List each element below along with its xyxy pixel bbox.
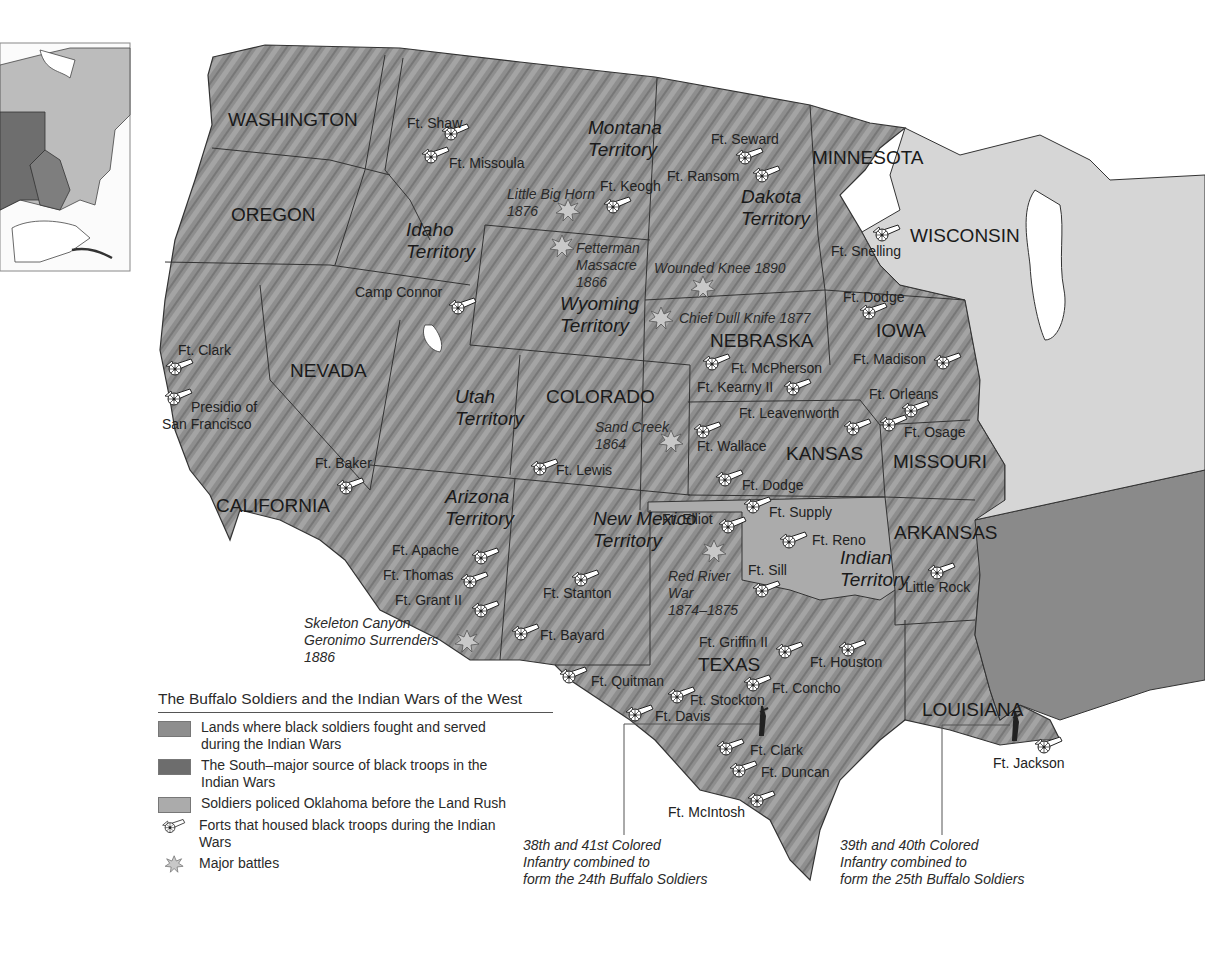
south-swatch [158,759,191,775]
territory-label: MontanaTerritory [588,117,662,160]
legend-label: Soldiers policed Oklahoma before the Lan… [201,795,521,812]
fort-label: Ft. Quitman [591,673,664,689]
state-label: KANSAS [786,443,863,464]
state-label: OREGON [231,204,315,225]
fort-label: Ft. Keogh [600,178,661,194]
fort-label: Ft. Seward [711,131,779,147]
fort-label: Ft. Stanton [543,585,611,601]
fort-label: Ft. Orleans [869,386,938,402]
battle-burst-icon [158,855,191,873]
legend-item-south: The South–major source of black troops i… [158,757,553,791]
fort-label: Ft. Thomas [383,567,454,583]
served-lands-swatch [158,721,191,737]
legend-label: Major battles [199,855,519,872]
fort-label: Ft. Elliot [662,511,713,527]
state-label: NEBRASKA [710,330,814,351]
fort-label: Ft. Bayard [540,627,605,643]
fort-label: Ft. Osage [904,424,966,440]
fort-label: Ft. Shaw [407,115,463,131]
state-label: ARKANSAS [894,522,997,543]
legend-label: The South–major source of black troops i… [201,757,521,791]
fort-label: Ft. Ransom [667,168,739,184]
map-legend: The Buffalo Soldiers and the Indian Wars… [158,690,553,877]
state-label: MINNESOTA [812,147,924,168]
legend-item-battles: Major battles [158,855,553,873]
fort-label: Ft. Lewis [556,462,612,478]
fort-label: Ft. Leavenworth [739,405,839,421]
inset-map [0,43,130,271]
oklahoma-swatch [158,797,191,813]
fort-label: Ft. Clark [178,342,232,358]
fort-label: Ft. McPherson [731,360,822,376]
legend-item-oklahoma: Soldiers policed Oklahoma before the Lan… [158,795,553,813]
state-label: TEXAS [698,654,760,675]
fort-label: Ft. Stockton [690,692,765,708]
fort-label: Ft. Apache [392,542,459,558]
fort-label: Ft. Clark [750,742,804,758]
fort-label: Ft. Wallace [697,438,767,454]
territory-label: ArizonaTerritory [444,486,515,529]
state-label: NEVADA [290,360,367,381]
fort-label: Ft. Dodge [742,477,804,493]
fort-label: Ft. Supply [769,504,832,520]
state-label: MISSOURI [893,451,987,472]
battle-label: Chief Dull Knife 1877 [679,310,812,326]
fort-label: Ft. Duncan [761,764,829,780]
fort-label: Ft. Dodge [843,289,905,305]
territory-label: DakotaTerritory [741,186,811,229]
legend-label: Lands where black soldiers fought and se… [201,719,521,753]
state-label: WISCONSIN [910,225,1020,246]
fort-label: Ft. Reno [812,532,866,548]
legend-title: The Buffalo Soldiers and the Indian Wars… [158,690,553,713]
legend-item-forts: Forts that housed black troops during th… [158,817,553,851]
fort-label: Ft. Missoula [449,155,525,171]
fort-label: Little Rock [905,579,971,595]
note-text: 39th and 40th ColoredInfantry combined t… [840,837,1024,887]
fort-label: Ft. Sill [748,562,787,578]
legend-item-served-lands: Lands where black soldiers fought and se… [158,719,553,753]
territory-label: WyomingTerritory [560,293,640,336]
state-label: LOUISIANA [922,699,1024,720]
battle-label: Wounded Knee 1890 [654,260,786,276]
fort-label: Ft. Grant II [395,592,462,608]
fort-label: Camp Connor [355,284,442,300]
state-label: CALIFORNIA [216,495,330,516]
fort-label: Ft. Davis [655,708,710,724]
fort-label: Ft. Griffin II [699,634,768,650]
fort-label: Ft. Madison [853,351,926,367]
fort-label: Ft. McIntosh [668,804,745,820]
fort-label: Ft. Kearny II [697,379,773,395]
fort-label: Ft. Snelling [831,243,901,259]
fort-label: Ft. Concho [772,680,841,696]
fort-label: Ft. Baker [315,455,372,471]
cannon-fort-icon [158,817,191,835]
fort-label: Ft. Houston [810,654,882,670]
state-label: IOWA [876,320,926,341]
state-label: COLORADO [546,386,655,407]
legend-label: Forts that housed black troops during th… [199,817,519,851]
fort-label: Ft. Jackson [993,755,1065,771]
state-label: WASHINGTON [228,109,358,130]
